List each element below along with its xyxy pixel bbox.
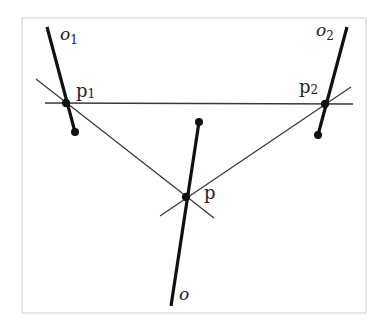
point-p xyxy=(182,193,190,201)
diagram-frame xyxy=(22,18,366,313)
endpoint-o1 xyxy=(71,128,79,136)
label-p1-sub: 1 xyxy=(88,87,96,101)
ray-o2 xyxy=(318,27,347,135)
endpoint-o2 xyxy=(314,131,322,139)
endpoint-o xyxy=(195,118,203,126)
label-o1-main: o xyxy=(60,24,70,44)
geometry-diagram: o1 o2 p1 p2 p o xyxy=(0,0,381,330)
label-p2-sub: 2 xyxy=(311,83,319,97)
label-p2: p2 xyxy=(299,76,318,97)
label-o: o xyxy=(179,284,189,304)
line-p1-p2 xyxy=(45,103,353,104)
label-p1: p1 xyxy=(76,80,95,101)
point-p1 xyxy=(62,99,70,107)
ray-o xyxy=(171,122,199,306)
label-o2: o2 xyxy=(316,20,334,43)
label-o1: o1 xyxy=(60,24,78,47)
label-o1-sub: 1 xyxy=(70,33,78,47)
label-p: p xyxy=(204,182,216,203)
label-o-main: o xyxy=(179,284,189,304)
point-p2 xyxy=(321,100,329,108)
label-o2-sub: 2 xyxy=(326,29,334,43)
label-o2-main: o xyxy=(316,20,326,40)
label-p2-main: p xyxy=(299,76,311,97)
label-p-main: p xyxy=(204,182,216,203)
label-p1-main: p xyxy=(76,80,88,101)
